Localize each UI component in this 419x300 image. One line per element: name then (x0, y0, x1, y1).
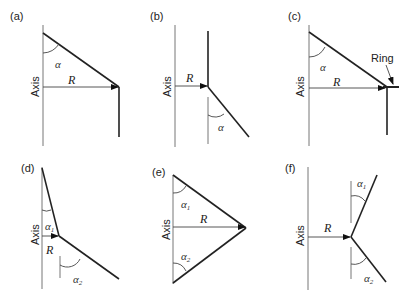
panel-e: (e) Axis R α1 α2 (152, 166, 246, 284)
panel-b: (b) Axis R α (150, 10, 249, 147)
angle-label-2: α2 (181, 250, 191, 264)
panel-label: (c) (288, 10, 301, 22)
angle-arc (309, 47, 325, 57)
angle-arc-1 (351, 196, 365, 201)
angle-arc-2 (351, 258, 366, 264)
axis-label: Axis (294, 76, 306, 97)
panel-label: (b) (150, 10, 163, 22)
radius-label: R (185, 71, 194, 85)
angle-arc-2 (173, 263, 186, 271)
panel-label: (f) (285, 162, 295, 174)
angle-label: α (218, 121, 224, 133)
lower-member (59, 236, 119, 279)
axis-label: Axis (29, 76, 41, 97)
angle-label: α (55, 58, 61, 70)
angle-arc-1 (42, 210, 51, 211)
angle-arc-2 (60, 259, 80, 267)
radius-label: R (45, 243, 54, 257)
panel-label: (d) (21, 162, 34, 174)
axis-label: Axis (29, 224, 41, 245)
axis-label: Axis (160, 219, 172, 240)
panel-f: (f) Axis R α1 α2 (285, 162, 386, 290)
angle-label: α (320, 61, 326, 73)
angle-arc (208, 114, 224, 117)
slanted-member (208, 87, 249, 137)
angle-label-2: α2 (364, 272, 374, 286)
angle-label-1: α1 (357, 177, 366, 191)
radius-label: R (199, 212, 208, 226)
axis-label: Axis (294, 225, 306, 246)
radius-label: R (323, 221, 332, 235)
radius-label: R (332, 75, 341, 89)
ring-pointer-arrow (386, 65, 393, 84)
ring-annotation: Ring (371, 52, 394, 64)
panel-d: (d) Axis R α1 α2 (21, 162, 119, 289)
angle-arc-1 (173, 186, 186, 193)
panel-label: (a) (10, 10, 23, 22)
angle-label-2: α2 (73, 273, 83, 287)
radius-label: R (67, 73, 76, 87)
axis-label: Axis (161, 76, 173, 97)
angle-arc (43, 44, 59, 53)
panel-a: (a) Axis R α (10, 10, 119, 146)
panel-label: (e) (152, 166, 165, 178)
figure-canvas: (a) Axis R α (b) Axis R α (c) Axis R α R… (0, 0, 419, 300)
panel-c: (c) Axis R α Ring (288, 10, 399, 146)
angle-label-1: α1 (45, 220, 54, 234)
angle-label-1: α1 (181, 198, 190, 212)
